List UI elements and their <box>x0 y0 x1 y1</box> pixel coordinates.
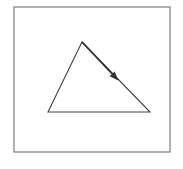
direction-arrow-shaft <box>82 42 117 79</box>
diagram-frame <box>14 7 170 152</box>
diagram-canvas <box>0 0 183 169</box>
triangle <box>48 42 150 112</box>
